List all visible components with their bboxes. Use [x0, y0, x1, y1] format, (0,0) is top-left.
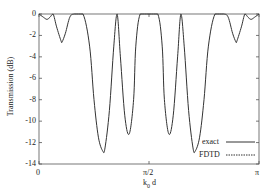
x-axis-label: k0 d	[143, 178, 156, 189]
x-label-d: d	[150, 178, 156, 187]
x-tick-pi: π	[255, 168, 259, 177]
chart-plot	[0, 0, 272, 195]
legend-label-fdtd: FDTD	[199, 150, 220, 159]
y-tick-label: -4	[29, 52, 36, 61]
y-axis-label: Transmission (dB)	[6, 47, 15, 127]
y-tick-label: -12	[25, 138, 36, 147]
y-tick-label: -14	[25, 159, 36, 168]
y-tick-label: 0	[32, 9, 36, 18]
y-tick-label: -10	[25, 116, 36, 125]
exact-curve	[39, 14, 259, 153]
x-tick-0: 0	[36, 168, 40, 177]
x-tick-pi-half: π/2	[143, 168, 153, 177]
legend-label-exact: exact	[202, 137, 219, 146]
y-tick-label: -8	[29, 95, 36, 104]
y-tick-label: -2	[29, 30, 36, 39]
y-tick-label: -6	[29, 73, 36, 82]
